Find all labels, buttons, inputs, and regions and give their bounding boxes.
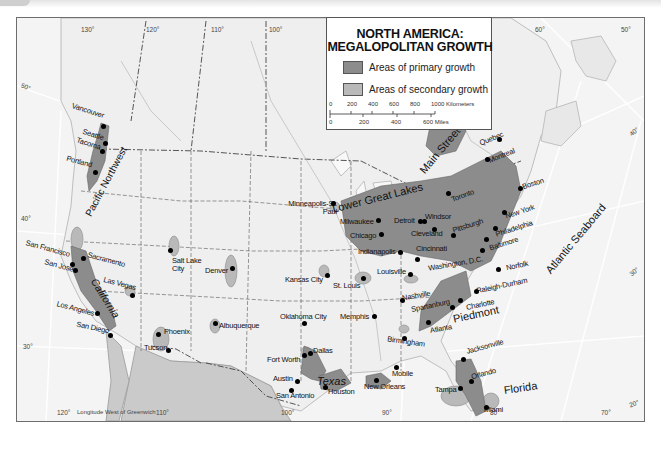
latitude-label: 30°	[23, 343, 33, 350]
city-label: New Orleans	[364, 383, 405, 391]
city-marker	[469, 379, 474, 384]
footer-note: Longitude West of Greenwich	[77, 409, 156, 415]
city-marker	[374, 378, 379, 383]
city-marker	[372, 314, 377, 319]
longitude-label: 90°	[382, 409, 392, 416]
city-label: Indianapolis	[358, 248, 396, 256]
city-marker	[400, 298, 405, 303]
secondary-growth-label: Areas of secondary growth	[369, 84, 488, 95]
longitude-label: 100°	[281, 409, 294, 416]
city-marker	[130, 293, 135, 298]
city-label: Memphis	[340, 313, 369, 321]
city-marker	[230, 266, 235, 271]
city-marker	[166, 348, 171, 353]
scale-km-tick: 800	[410, 101, 420, 107]
city-label: Louisville	[377, 268, 406, 276]
city-label: Phoenix	[164, 328, 190, 336]
city-marker	[168, 248, 173, 253]
scale-mi-tick: 600 Miles	[423, 119, 449, 125]
city-label: Fort Worth	[267, 356, 300, 364]
city-marker	[484, 405, 489, 410]
city-label: Houston	[328, 388, 355, 396]
page-corner	[0, 0, 30, 6]
city-marker	[496, 267, 501, 272]
city-marker	[379, 232, 384, 237]
city-label: Dallas	[313, 347, 333, 355]
city-label: Chicago	[350, 232, 376, 240]
city-label: Windsor	[425, 213, 451, 221]
city-marker	[108, 333, 113, 338]
city-marker	[480, 248, 485, 253]
scale-km-tick: 1000 Kilometers	[431, 101, 474, 107]
city-marker	[308, 351, 313, 356]
city-label: San Antonio	[276, 392, 314, 400]
longitude-label: 70°	[601, 409, 611, 416]
city-label: Austin	[273, 375, 293, 383]
city-marker	[289, 388, 294, 393]
city-marker	[458, 298, 463, 303]
city-marker	[103, 141, 108, 146]
city-marker	[331, 201, 336, 206]
longitude-label: 120°	[57, 409, 70, 416]
city-label: Tucson	[144, 344, 167, 352]
city-marker	[376, 218, 381, 223]
scale-km-tick: 400	[368, 101, 378, 107]
city-marker	[323, 385, 328, 390]
city-label: Cleveland	[411, 230, 443, 238]
city-marker	[458, 386, 463, 391]
scale-km-tick: 600	[389, 101, 399, 107]
city-marker	[408, 272, 413, 277]
longitude-label: 120°	[146, 26, 159, 33]
latitude-label: 40°	[21, 215, 31, 222]
city-marker	[361, 276, 366, 281]
city-label: Albuquerque	[219, 322, 259, 330]
longitude-label: 50°	[621, 26, 631, 33]
primary-growth-label: Areas of primary growth	[369, 62, 475, 73]
city-label: Detroit	[394, 217, 415, 225]
city-marker	[474, 289, 479, 294]
city-marker	[451, 233, 456, 238]
city-marker	[484, 237, 489, 242]
city-label: St. Louis	[333, 282, 360, 290]
city-marker	[325, 273, 330, 278]
primary-growth-swatch	[343, 61, 363, 74]
city-marker	[93, 170, 98, 175]
scale-km-tick: 200	[347, 101, 357, 107]
city-marker	[502, 210, 507, 215]
city-label: Cincinnati	[416, 245, 447, 253]
longitude-label: 130°	[81, 26, 94, 33]
city-marker	[422, 219, 427, 224]
longitude-label: 110°	[156, 409, 169, 416]
city-marker	[461, 357, 466, 362]
city-label: Denver	[205, 267, 228, 275]
city-marker	[70, 262, 75, 267]
city-marker	[432, 227, 437, 232]
city-label: Tampa	[435, 386, 457, 394]
city-label: Mobile	[392, 370, 413, 378]
city-label: Milwaukee	[340, 218, 374, 226]
city-marker	[95, 311, 100, 316]
city-marker	[213, 321, 218, 326]
secondary-growth-swatch	[343, 83, 363, 96]
city-marker	[518, 186, 523, 191]
city-marker	[302, 321, 307, 326]
city-marker	[493, 226, 498, 231]
city-marker	[497, 137, 502, 142]
city-label: Oklahoma City	[280, 313, 327, 321]
city-marker	[100, 149, 105, 154]
map-legend: NORTH AMERICA: MEGALOPOLITAN GROWTH Area…	[326, 17, 492, 130]
city-marker	[398, 250, 403, 255]
scale-mi-tick: 200	[359, 119, 369, 125]
city-marker	[394, 365, 399, 370]
scale-bar	[329, 109, 454, 119]
city-marker	[415, 257, 420, 262]
map-title-line2: MEGALOPOLITAN GROWTH	[327, 41, 493, 54]
city-marker	[302, 353, 307, 358]
city-marker	[446, 191, 451, 196]
city-marker	[402, 336, 407, 341]
city-label: Minneapolis-St. Paul	[287, 200, 337, 216]
region-texas: Texas	[317, 375, 346, 387]
scale-mi-tick: 400	[391, 119, 401, 125]
city-marker	[81, 256, 86, 261]
city-marker	[295, 379, 300, 384]
